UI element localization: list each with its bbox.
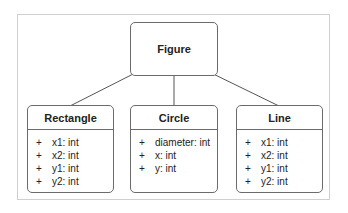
- class-header: Line: [237, 106, 322, 130]
- class-figure: Figure: [130, 22, 218, 76]
- attribute: +x2: int: [36, 149, 113, 162]
- class-line: Line +x1: int +x2: int +y1: int +y2: int: [236, 105, 323, 193]
- class-header: Circle: [131, 106, 217, 130]
- attribute-list: +x1: int +x2: int +y1: int +y2: int: [28, 130, 113, 188]
- class-name: Figure: [157, 43, 191, 55]
- attribute: +y1: int: [245, 162, 322, 175]
- attribute: +x1: int: [36, 136, 113, 149]
- attribute: +y: int: [139, 162, 217, 175]
- attribute: +y2: int: [36, 175, 113, 188]
- attribute-list: +x1: int +x2: int +y1: int +y2: int: [237, 130, 322, 188]
- attribute: +x2: int: [245, 149, 322, 162]
- class-name: Rectangle: [44, 112, 97, 124]
- attribute: +diameter: int: [139, 136, 217, 149]
- class-name: Circle: [159, 112, 190, 124]
- class-rectangle: Rectangle +x1: int +x2: int +y1: int +y2…: [27, 105, 114, 193]
- attribute-list: +diameter: int +x: int +y: int: [131, 130, 217, 175]
- class-header: Rectangle: [28, 106, 113, 130]
- attribute: +y1: int: [36, 162, 113, 175]
- attribute: +x1: int: [245, 136, 322, 149]
- class-name: Line: [268, 112, 291, 124]
- class-circle: Circle +diameter: int +x: int +y: int: [130, 105, 218, 193]
- attribute: +x: int: [139, 149, 217, 162]
- attribute: +y2: int: [245, 175, 322, 188]
